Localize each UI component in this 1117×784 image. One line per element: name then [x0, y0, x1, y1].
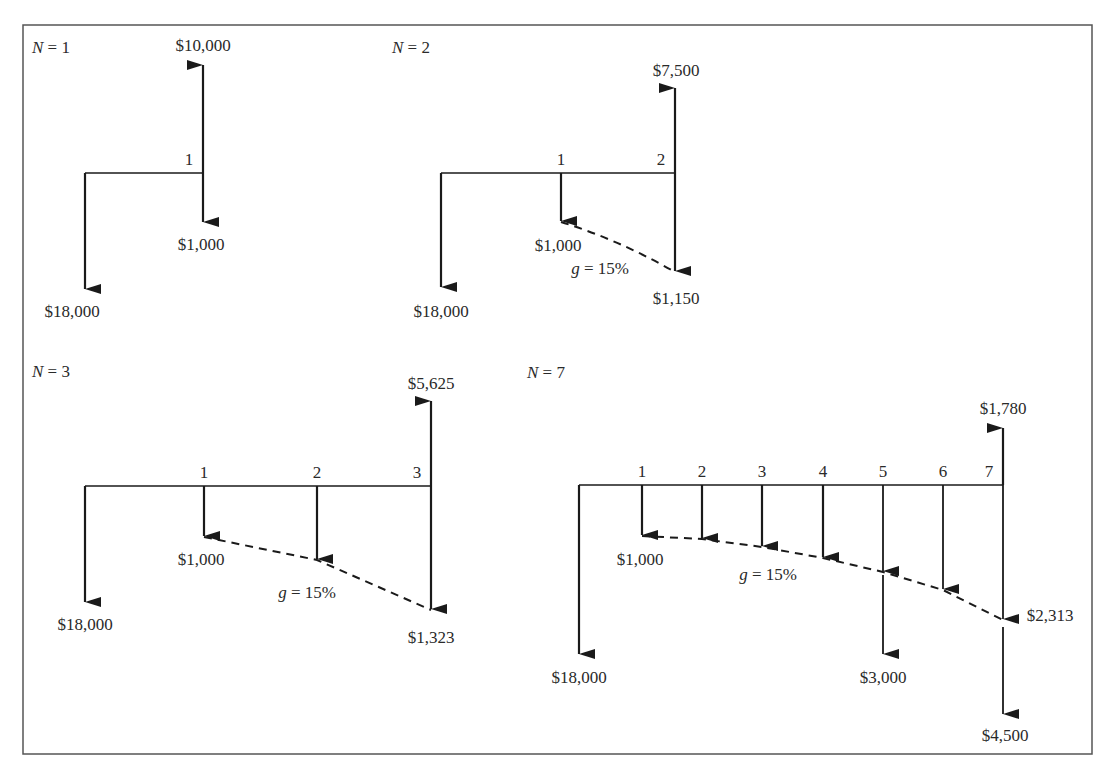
title-value: = 3	[43, 362, 70, 381]
operating-cost-label: $1,150	[653, 289, 700, 308]
panel-title: N = 7	[526, 363, 565, 382]
panel-title: N = 3	[31, 362, 70, 381]
title-value: = 1	[43, 38, 70, 57]
salvage-value-label: $5,625	[408, 374, 455, 393]
initial-investment-label: $18,000	[44, 302, 99, 321]
initial-investment-label: $18,000	[57, 615, 112, 634]
growth-rate-label: g = 15%	[739, 565, 797, 584]
operating-cost-label: $1,000	[617, 550, 664, 569]
operating-cost-label: $1,000	[535, 236, 582, 255]
period-label: 2	[698, 462, 707, 481]
period-label: 2	[313, 463, 322, 482]
variable-g: g	[278, 583, 287, 602]
growth-rate-label: g = 15%	[571, 259, 629, 278]
salvage-value-label: $1,780	[980, 399, 1027, 418]
period-label: 4	[819, 462, 828, 481]
panel-n1: N = 11$18,000$1,000$10,000	[31, 36, 231, 321]
growth-rate-value: = 15%	[287, 583, 336, 602]
operating-cost-label: $2,313	[1027, 606, 1074, 625]
initial-investment-label: $18,000	[551, 668, 606, 687]
growth-rate-value: = 15%	[748, 565, 797, 584]
title-value: = 7	[538, 363, 565, 382]
replacement-cost-label: $3,000	[860, 668, 907, 687]
panel-n7: N = 71234567$18,000$1,000$2,313g = 15%$1…	[526, 363, 1073, 745]
period-label: 3	[413, 463, 422, 482]
panel-n3: N = 3123$18,000$1,000$1,323g = 15%$5,625	[31, 362, 454, 647]
panel-title: N = 1	[31, 38, 70, 57]
growth-rate-value: = 15%	[580, 259, 629, 278]
period-label: 7	[985, 462, 994, 481]
operating-cost-label: $1,323	[408, 628, 455, 647]
period-label: 5	[879, 462, 888, 481]
operating-cost-label: $1,000	[178, 550, 225, 569]
panels: N = 11$18,000$1,000$10,000N = 212$18,000…	[31, 36, 1073, 745]
variable-g: g	[739, 565, 748, 584]
period-label: 3	[758, 462, 767, 481]
period-label: 2	[657, 150, 666, 169]
variable-g: g	[571, 259, 580, 278]
period-label: 1	[200, 463, 209, 482]
panel-title: N = 2	[391, 38, 430, 57]
period-label: 1	[557, 150, 566, 169]
replacement-cost-label: $4,500	[982, 726, 1029, 745]
panel-n2: N = 212$18,000$1,000$1,150g = 15%$7,500	[391, 38, 699, 321]
figure-frame	[23, 25, 1092, 754]
period-label: 6	[939, 462, 948, 481]
period-label: 1	[638, 462, 647, 481]
salvage-value-label: $10,000	[175, 36, 230, 55]
period-label: 1	[185, 150, 194, 169]
title-value: = 2	[403, 38, 430, 57]
growth-rate-label: g = 15%	[278, 583, 336, 602]
salvage-value-label: $7,500	[653, 61, 700, 80]
operating-cost-label: $1,000	[178, 235, 225, 254]
cash-flow-diagrams: N = 11$18,000$1,000$10,000N = 212$18,000…	[0, 0, 1117, 784]
initial-investment-label: $18,000	[413, 302, 468, 321]
